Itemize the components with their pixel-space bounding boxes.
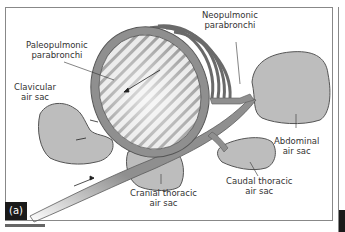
label-clavicular: Clavicular air sac — [14, 82, 56, 102]
label-clavicular-line2: air sac — [14, 92, 56, 102]
label-abdominal: Abdominal air sac — [274, 136, 319, 156]
label-abdominal-line2: air sac — [274, 146, 319, 156]
label-cranial-line1: Cranial thoracic — [130, 188, 197, 198]
label-caudal-thoracic: Caudal thoracic air sac — [226, 176, 293, 196]
label-caudal-line1: Caudal thoracic — [226, 176, 293, 186]
label-cranial-thoracic: Cranial thoracic air sac — [130, 188, 197, 208]
label-abdominal-line1: Abdominal — [274, 136, 319, 146]
panel-label-badge: (a) — [5, 202, 27, 220]
label-neopulmonic-line2: parabronchi — [202, 20, 258, 30]
label-caudal-line2: air sac — [226, 186, 293, 196]
abdominal-air-sac — [252, 52, 330, 124]
label-paleopulmonic-line1: Paleopulmonic — [26, 40, 88, 50]
label-paleopulmonic-line2: parabronchi — [26, 50, 88, 60]
label-neopulmonic-line1: Neopulmonic — [202, 10, 258, 20]
label-neopulmonic: Neopulmonic parabronchi — [202, 10, 258, 30]
label-paleopulmonic: Paleopulmonic parabronchi — [26, 40, 88, 60]
label-cranial-line2: air sac — [130, 198, 197, 208]
label-clavicular-line1: Clavicular — [14, 82, 56, 92]
caudal-thoracic-air-sac — [218, 138, 276, 170]
